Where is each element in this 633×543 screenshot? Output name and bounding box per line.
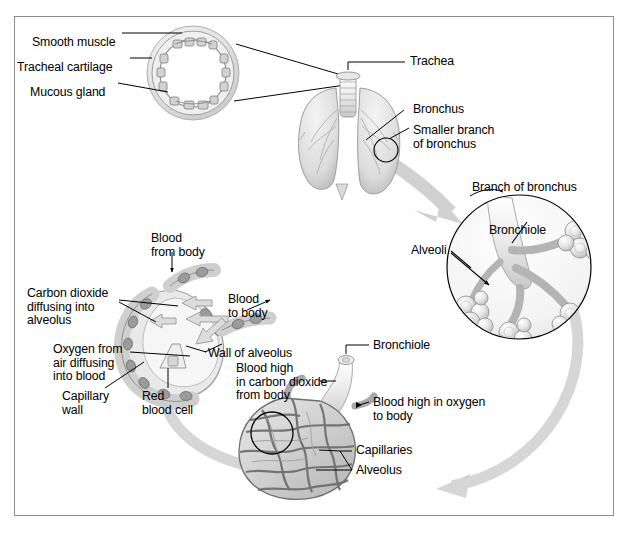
label-oxygen-from-air: Oxygen from air diffusing into blood	[53, 343, 122, 384]
label-bronchiole-circle: Bronchiole	[489, 224, 546, 238]
label-mucous-gland: Mucous gland	[30, 86, 105, 100]
flow-arrow-bronchus-to-circle	[387, 160, 463, 224]
diagram-stage: Smooth muscle Tracheal cartilage Mucous …	[0, 0, 633, 543]
label-bronchiole-lower: Bronchiole	[373, 339, 430, 353]
label-blood-high-oxygen: Blood high in oxygen to body	[373, 396, 485, 423]
label-trachea: Trachea	[410, 55, 454, 69]
label-blood-high-carbon-dioxide: Blood high in carbon dioxide from body	[236, 362, 327, 403]
label-blood-from-body: Blood from body	[151, 232, 205, 259]
diagram-artwork	[0, 0, 633, 543]
lungs-illustration	[298, 72, 399, 200]
label-capillary-wall: Capillary wall	[62, 390, 109, 417]
label-carbon-dioxide-diffusing: Carbon dioxide diffusing into alveolus	[27, 287, 108, 328]
label-blood-to-body: Blood to body	[228, 293, 268, 320]
label-red-blood-cell: Red blood cell	[142, 390, 193, 417]
label-bronchus: Bronchus	[413, 103, 464, 117]
label-alveoli: Alveoli	[411, 244, 447, 258]
label-branch-of-bronchus: Branch of bronchus	[472, 181, 577, 195]
label-smaller-branch-of-bronchus: Smaller branch of bronchus	[413, 124, 494, 151]
label-capillaries: Capillaries	[356, 444, 412, 458]
label-tracheal-cartilage: Tracheal cartilage	[17, 61, 112, 75]
label-wall-of-alveolus: Wall of alveolus	[208, 347, 292, 361]
trachea-cross-section-illustration	[147, 26, 239, 120]
label-alveolus: Alveolus	[356, 464, 402, 478]
label-smooth-muscle: Smooth muscle	[32, 36, 115, 50]
